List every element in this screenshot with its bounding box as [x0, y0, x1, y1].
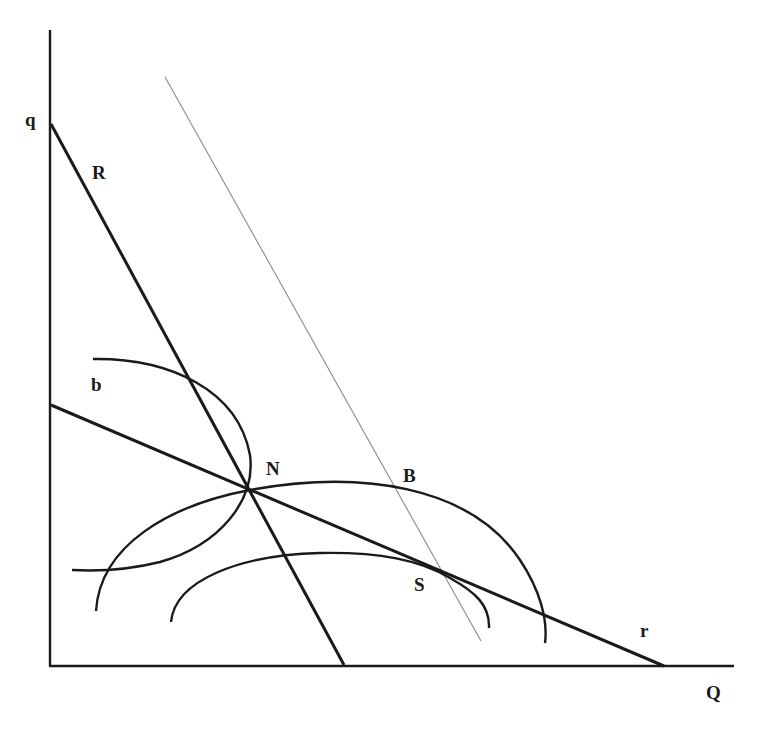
label-q: q	[25, 110, 36, 129]
label-B: B	[403, 466, 416, 485]
thin-line-B	[165, 77, 481, 641]
label-Q: Q	[706, 683, 721, 702]
label-b: b	[91, 375, 102, 394]
indifference-curve-diagram	[0, 0, 766, 731]
curve-S-arc	[171, 553, 489, 628]
label-r: r	[640, 621, 648, 640]
label-N: N	[266, 459, 280, 478]
curve-N-arc	[96, 482, 546, 643]
label-S: S	[414, 575, 425, 594]
label-R: R	[92, 163, 106, 182]
line-r	[51, 405, 664, 666]
